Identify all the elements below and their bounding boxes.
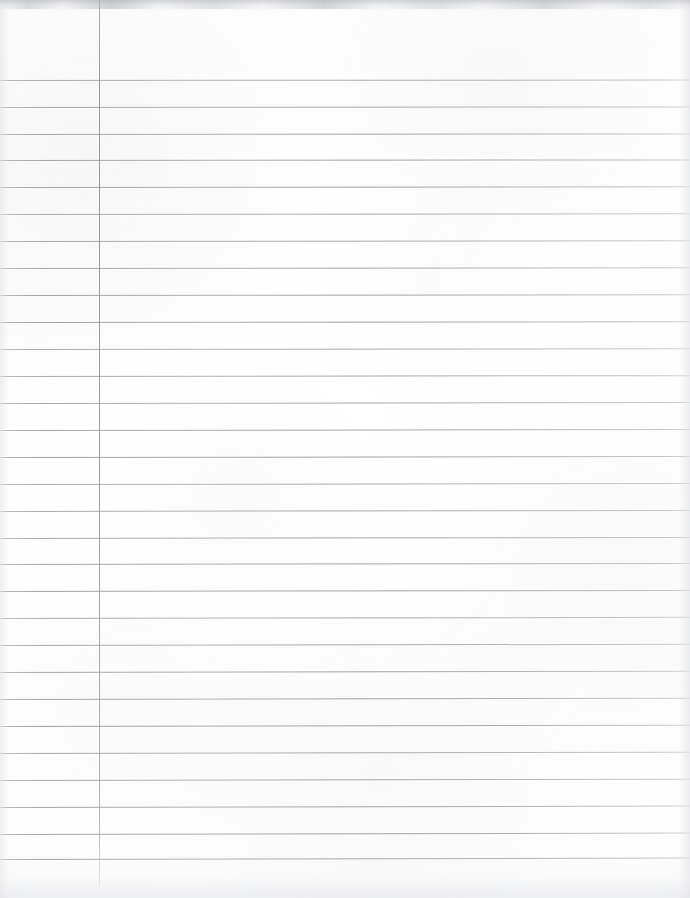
writing-area[interactable]	[100, 0, 690, 898]
scanned-page	[0, 0, 690, 898]
